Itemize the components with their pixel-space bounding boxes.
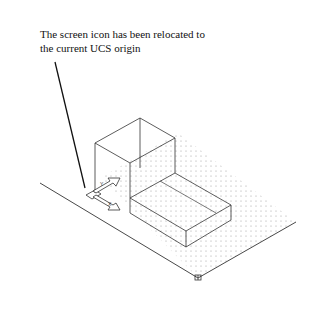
leader-line [55,62,85,188]
cad-drawing: Y X [0,0,311,312]
dot-grid [100,133,296,278]
diagram-canvas: The screen icon has been relocated to th… [0,0,311,312]
ucs-icon: Y X [86,178,120,210]
